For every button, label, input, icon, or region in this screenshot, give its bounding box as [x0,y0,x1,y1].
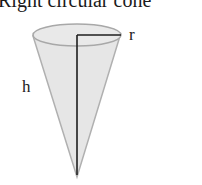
height-label: h [22,77,31,97]
radius-label: r [129,25,135,45]
